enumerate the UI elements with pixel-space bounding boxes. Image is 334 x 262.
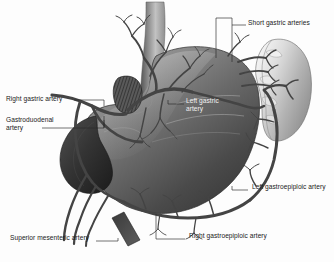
anatomy-figure: Short gastric arteries Right gastric art… (0, 0, 334, 262)
label-left-gastroepiploic-artery: Left gastroepiploic artery (252, 183, 326, 191)
label-line: Left gastric (186, 97, 219, 105)
label-line: Short gastric arteries (248, 19, 310, 27)
label-right-gastroepiploic-artery: Right gastroepiploic artery (189, 232, 267, 240)
diaphragm-crus-shape (113, 76, 142, 113)
label-line: artery (6, 124, 54, 132)
label-left-gastric-artery: Left gastric artery (186, 97, 219, 114)
label-gastroduodenal-artery: Gastroduodenal artery (6, 116, 54, 133)
label-line: Left gastroepiploic artery (252, 183, 326, 191)
label-line: artery (186, 105, 219, 113)
label-line: Superior mesenteric artery (10, 234, 89, 242)
label-right-gastric-artery: Right gastric artery (6, 95, 62, 103)
label-superior-mesenteric-artery: Superior mesenteric artery (10, 234, 89, 242)
label-line: Right gastric artery (6, 95, 62, 103)
label-line: Gastroduodenal (6, 116, 54, 124)
label-short-gastric-arteries: Short gastric arteries (248, 19, 310, 27)
label-line: Right gastroepiploic artery (189, 232, 267, 240)
